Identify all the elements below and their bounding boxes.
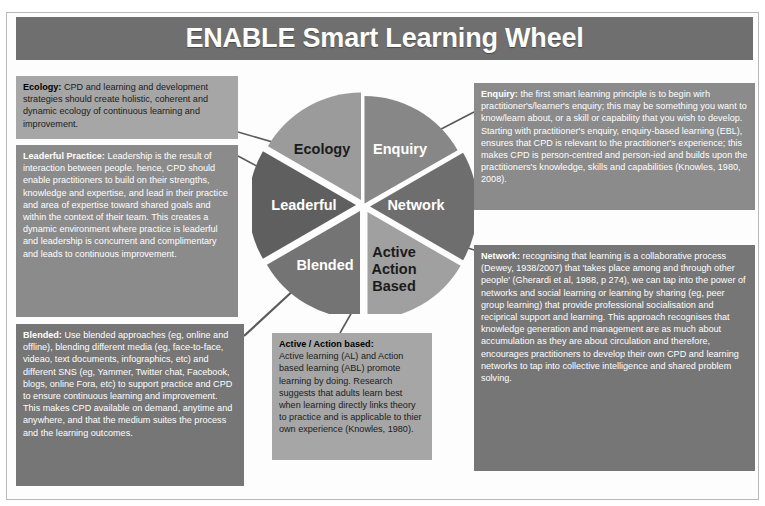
callout-enquiry-body: the first smart learning principle is to… bbox=[481, 89, 747, 184]
wheel-label-leaderful: Leaderful bbox=[271, 197, 336, 213]
callout-leaderful-body: Leadership is the result of interaction … bbox=[23, 151, 228, 259]
callout-leaderful: Leaderful Practice: Leadership is the re… bbox=[16, 145, 238, 317]
callout-ecology: Ecology: CPD and learning and developmen… bbox=[16, 76, 238, 139]
callout-blended-lead: Blended: bbox=[23, 330, 62, 340]
callout-blended: Blended: Use blended approaches (eg, onl… bbox=[16, 324, 244, 486]
callout-leaderful-lead: Leaderful Practice: bbox=[23, 151, 105, 161]
wheel-label-active-line-2: Action bbox=[371, 261, 416, 277]
callout-network: Network: recognising that learning is a … bbox=[474, 245, 755, 471]
callout-active-body: Active learning (AL) and Action based le… bbox=[279, 351, 422, 434]
slide-canvas: ENABLE Smart Learning Wheel bbox=[0, 0, 765, 506]
callout-blended-body: Use blended approaches (eg, online and o… bbox=[23, 330, 232, 438]
smart-learning-wheel: Ecology Enquiry Leaderful Network Blende… bbox=[252, 92, 474, 314]
callout-active-action-based: Active / Action based:Active learning (A… bbox=[272, 333, 432, 460]
page-title: ENABLE Smart Learning Wheel bbox=[185, 25, 583, 52]
callout-network-lead: Network: bbox=[481, 251, 520, 261]
wheel-label-network: Network bbox=[387, 197, 445, 213]
page-title-banner: ENABLE Smart Learning Wheel bbox=[16, 17, 753, 60]
wheel-label-active-line-3: Based bbox=[372, 278, 416, 294]
wheel-label-ecology: Ecology bbox=[294, 141, 350, 157]
callout-active-lead: Active / Action based: bbox=[279, 339, 374, 349]
callout-enquiry-lead: Enquiry: bbox=[481, 89, 518, 99]
callout-network-body: recognising that learning is a collabora… bbox=[481, 251, 746, 383]
wheel-label-active-line-1: Active bbox=[372, 244, 416, 260]
callout-ecology-lead: Ecology: bbox=[23, 82, 61, 92]
callout-enquiry: Enquiry: the first smart learning princi… bbox=[474, 83, 755, 210]
wheel-label-enquiry: Enquiry bbox=[373, 141, 427, 157]
wheel-label-blended: Blended bbox=[296, 257, 353, 273]
wheel-label-active: Active Action Based bbox=[371, 244, 416, 294]
